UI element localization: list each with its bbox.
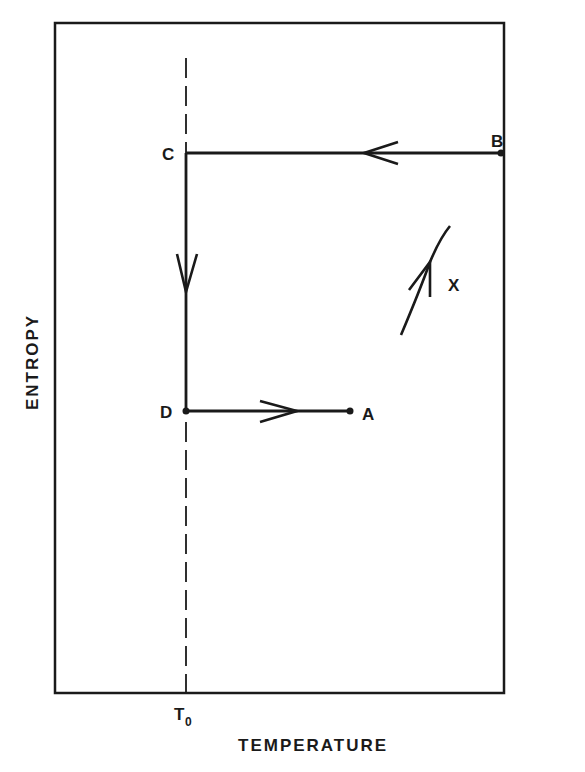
point-a-marker: [347, 408, 354, 415]
label-d: D: [160, 403, 172, 422]
x-axis-title: TEMPERATURE: [238, 736, 388, 755]
t0-label-subscript: 0: [185, 715, 192, 729]
t0-label: T 0: [174, 705, 192, 729]
path-b-to-c: [186, 142, 505, 164]
entropy-temperature-diagram: C B D A X T 0 TEMPERATURE ENTROPY: [0, 0, 585, 772]
point-d-marker: [183, 408, 190, 415]
plot-frame: [55, 23, 504, 693]
y-axis-title: ENTROPY: [23, 314, 42, 410]
path-c-to-d: [177, 153, 197, 411]
label-a: A: [362, 405, 374, 424]
path-d-to-a: [183, 401, 354, 422]
label-x: X: [448, 276, 460, 295]
t0-label-main: T: [174, 705, 185, 724]
label-b: B: [491, 132, 503, 151]
path-x: [401, 226, 450, 335]
label-c: C: [162, 145, 174, 164]
